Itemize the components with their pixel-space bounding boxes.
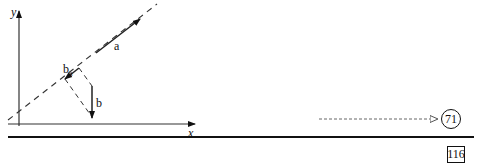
- vector-projection-diagram: [0, 0, 481, 168]
- x-axis-label: x: [188, 127, 193, 139]
- y-axis-label: y: [11, 6, 16, 18]
- vector-b-label: b: [96, 97, 102, 109]
- page-number-box: 116: [447, 146, 465, 163]
- projection-label: ba: [63, 63, 73, 78]
- vector-a-label: a: [114, 40, 119, 52]
- projection-label-subscript: a: [69, 69, 73, 78]
- perpendicular-dashed: [65, 79, 92, 117]
- reference-circle: 71: [441, 109, 461, 129]
- perpendicular-dashed-2: [79, 68, 92, 86]
- direction-line: [8, 4, 157, 120]
